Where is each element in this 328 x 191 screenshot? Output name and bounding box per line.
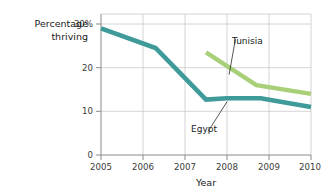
x-tick-label-2009: 2009	[258, 162, 280, 172]
y-axis-title-line2: thriving	[51, 31, 88, 42]
y-axis-title-line1: Percentage	[35, 18, 89, 29]
y-tick-label-0: 0	[88, 150, 93, 160]
y-tick-marks	[96, 24, 101, 155]
series-label-egypt: Egypt	[191, 124, 217, 134]
x-tick-label-2005: 2005	[90, 162, 112, 172]
series-label-tunisia: Tunisia	[231, 36, 263, 46]
line-chart: 30% 20 10 0 2005 2006 2007 2008 2009 201…	[0, 0, 328, 191]
chart-container: 30% 20 10 0 2005 2006 2007 2008 2009 201…	[0, 0, 328, 191]
x-axis-title: Year	[195, 177, 216, 188]
y-tick-label-10: 10	[82, 106, 93, 116]
x-tick-marks	[101, 155, 311, 160]
x-tick-label-2008: 2008	[216, 162, 238, 172]
y-tick-label-20: 20	[82, 63, 93, 73]
x-tick-label-2007: 2007	[174, 162, 196, 172]
series-line-tunisia	[206, 52, 311, 93]
x-tick-label-2010: 2010	[299, 162, 321, 172]
x-tick-label-2006: 2006	[132, 162, 154, 172]
